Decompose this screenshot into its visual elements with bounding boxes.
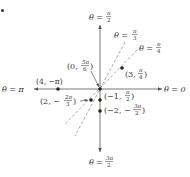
label-point-3-pi4: (3, π 4 ) — [125, 67, 147, 80]
svg-text:): ) — [144, 70, 147, 79]
pointer-0-5pi6 — [91, 71, 99, 87]
point-neg2-neg3pi2 — [98, 109, 102, 113]
svg-text:3: 3 — [133, 35, 137, 41]
label-point-0-5pi6: (0, 5π 6 ) — [67, 59, 93, 72]
point-4-negpi — [56, 87, 60, 91]
point-origin — [98, 87, 102, 91]
svg-text:): ) — [142, 106, 145, 115]
label-ray-pi-over-3: θ = π 3 — [114, 28, 137, 41]
svg-text:): ) — [90, 62, 93, 71]
svg-text:θ =: θ = — [89, 158, 103, 167]
svg-text:6: 6 — [83, 66, 87, 72]
label-theta-pi: θ = π — [2, 85, 25, 94]
label-theta-pi-over-2: θ = π 2 — [89, 10, 111, 23]
label-theta-3pi-over-2: θ = 3π 2 — [89, 155, 113, 168]
svg-text:(−2, −: (−2, − — [104, 106, 131, 115]
label-point-neg1-pi2: (−1, π 2 ) — [104, 89, 134, 102]
svg-text:3π: 3π — [106, 155, 113, 161]
label-point-2-neg2pi3: (2, − 2π 3 ) — [40, 94, 76, 107]
svg-text:π: π — [156, 41, 161, 47]
svg-text:π: π — [132, 28, 137, 34]
svg-text:): ) — [131, 92, 134, 101]
svg-text:): ) — [73, 97, 76, 106]
svg-text:θ =: θ = — [139, 44, 153, 53]
svg-text:π: π — [125, 89, 130, 95]
svg-text:θ =: θ = — [89, 13, 103, 22]
polar-diagram: θ = 0 θ = π θ = π 2 θ = 3π 2 θ = π 3 θ =… — [0, 0, 190, 177]
svg-text:2: 2 — [107, 162, 111, 168]
svg-text:2: 2 — [107, 17, 111, 23]
label-ray-pi-over-4: θ = π 4 — [139, 41, 161, 54]
point-2-neg2pi3 — [89, 98, 93, 102]
svg-text:5π: 5π — [82, 59, 89, 65]
svg-text:3: 3 — [66, 101, 70, 107]
label-theta-0: θ = 0 — [164, 85, 186, 94]
svg-text:3π: 3π — [134, 103, 141, 109]
point-neg1-pi2 — [98, 98, 102, 102]
svg-text:(0,: (0, — [67, 62, 78, 71]
svg-text:π: π — [138, 67, 143, 73]
svg-text:2π: 2π — [64, 94, 72, 100]
svg-text:4: 4 — [157, 48, 161, 54]
svg-text:2: 2 — [126, 96, 130, 102]
label-point-4-negpi: (4, −π) — [36, 77, 63, 86]
svg-text:4: 4 — [139, 74, 143, 80]
label-point-neg2-neg3pi2: (−2, − 3π 2 ) — [104, 103, 145, 116]
pointer-2-neg2pi3 — [80, 100, 88, 101]
svg-text:(3,: (3, — [125, 70, 136, 79]
svg-text:2: 2 — [135, 110, 139, 116]
point-3-pi4 — [120, 66, 124, 70]
svg-text:π: π — [106, 10, 111, 16]
svg-text:(2, −: (2, − — [40, 97, 60, 106]
svg-text:θ =: θ = — [114, 31, 128, 40]
svg-text:(−1,: (−1, — [104, 92, 121, 101]
